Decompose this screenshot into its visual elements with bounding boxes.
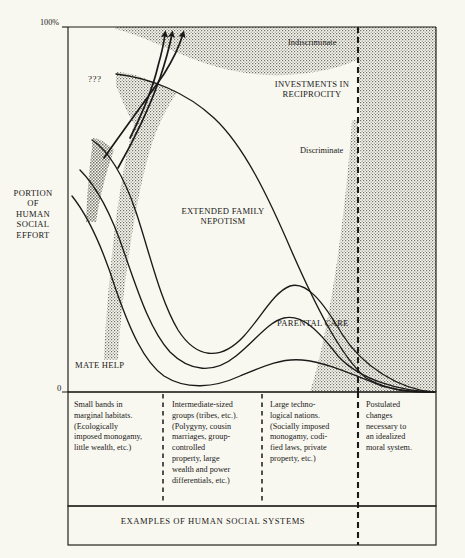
table-caption: EXAMPLES OF HUMAN SOCIAL SYSTEMS (68, 516, 358, 526)
y-axis-title: PORTION OF HUMAN SOCIAL EFFORT (4, 188, 62, 240)
example-column-small-bands: Small bands in marginal habitats. (Ecolo… (74, 400, 158, 454)
uncertainty-label: ??? (88, 74, 101, 85)
y-axis-tick-0: 0 (57, 383, 61, 393)
y-axis-tick-100: 100% (40, 18, 59, 28)
band-label-parental-care: PARENTAL CARE (277, 318, 348, 328)
band-label-discriminate: Discriminate (300, 146, 343, 156)
band-label-reciprocity: INVESTMENTS IN RECIPROCITY (264, 79, 360, 100)
band-label-nepotism: EXTENDED FAMILY NEPOTISM (168, 206, 278, 227)
example-column-large-nations: Large techno- logical nations. (Socially… (270, 400, 354, 465)
figure-root: PORTION OF HUMAN SOCIAL EFFORT 100% 0 ??… (0, 0, 465, 558)
band-label-indiscriminate: Indiscriminate (288, 38, 336, 48)
left-stipple-band (86, 72, 178, 360)
example-column-intermediate-groups: Intermediate-sized groups (tribes, etc.)… (172, 400, 256, 487)
band-label-mate-help: MATE HELP (75, 360, 124, 370)
example-column-postulated-changes: Postulated changes necessary to an ideal… (366, 400, 444, 454)
